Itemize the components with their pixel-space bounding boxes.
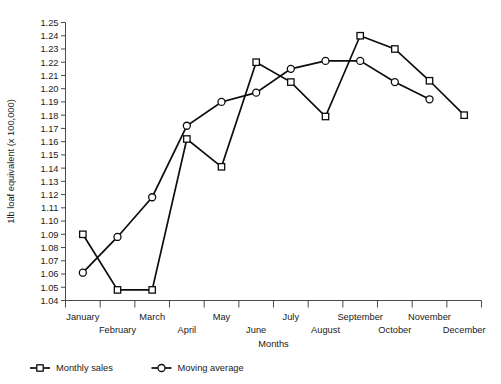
y-axis-tick-label: 1.14: [40, 164, 58, 174]
line-chart: 1.251.241.231.221.211.201.191.181.171.16…: [0, 0, 501, 384]
x-axis-title: Months: [258, 339, 289, 349]
data-point-square: [426, 78, 432, 84]
series-line-0: [83, 36, 464, 290]
y-axis-tick-label: 1.25: [40, 18, 58, 28]
y-axis-tick-label: 1.10: [40, 216, 58, 226]
data-point-square: [288, 79, 294, 85]
x-axis-month-label: July: [283, 312, 300, 322]
data-point-square: [461, 112, 467, 118]
legend-marker-circle: [158, 365, 165, 372]
y-axis-tick-label: 1.21: [40, 71, 58, 81]
x-axis-month-label: May: [213, 312, 231, 322]
y-axis-title: 1lb loaf equivalent (x 100,000): [6, 99, 16, 224]
data-point-circle: [149, 194, 156, 201]
chart-figure: 1.251.241.231.221.211.201.191.181.171.16…: [0, 0, 501, 384]
y-axis-tick-label: 1.04: [40, 296, 58, 306]
x-axis-month-label: August: [311, 325, 340, 335]
data-point-circle: [426, 96, 433, 103]
y-axis-tick-label: 1.17: [40, 124, 58, 134]
x-axis-month-label: March: [139, 312, 165, 322]
data-point-square: [253, 59, 259, 65]
x-axis-month-label: January: [66, 312, 99, 322]
x-axis-month-label: February: [99, 325, 137, 335]
data-point-square: [184, 136, 190, 142]
data-point-circle: [253, 89, 260, 96]
y-axis-tick-label: 1.09: [40, 230, 58, 240]
x-axis-month-label: September: [337, 312, 382, 322]
y-axis-tick-label: 1.15: [40, 150, 58, 160]
data-point-square: [392, 46, 398, 52]
x-axis-month-label: December: [443, 325, 486, 335]
y-axis-tick-label: 1.24: [40, 31, 58, 41]
y-axis-tick-label: 1.05: [40, 283, 58, 293]
data-point-square: [218, 164, 224, 170]
data-point-square: [114, 287, 120, 293]
data-point-square: [322, 113, 328, 119]
y-axis-tick-label: 1.19: [40, 97, 58, 107]
data-point-circle: [322, 57, 329, 64]
y-axis-tick-label: 1.11: [41, 203, 58, 213]
y-axis-tick-label: 1.18: [40, 111, 58, 121]
data-point-square: [149, 287, 155, 293]
data-point-circle: [357, 57, 364, 64]
y-axis-tick-label: 1.23: [40, 44, 58, 54]
data-point-circle: [114, 233, 121, 240]
data-point-circle: [79, 269, 86, 276]
x-axis-month-label: October: [378, 325, 411, 335]
y-axis-tick-label: 1.16: [40, 137, 58, 147]
x-axis-month-label: April: [178, 325, 197, 335]
data-point-circle: [391, 79, 398, 86]
legend-label-1: Moving average: [178, 363, 244, 373]
x-axis-month-label: November: [408, 312, 451, 322]
y-axis-tick-label: 1.06: [40, 269, 58, 279]
y-axis-tick-label: 1.12: [40, 190, 58, 200]
y-axis-tick-label: 1.13: [40, 177, 58, 187]
x-axis-month-label: June: [246, 325, 266, 335]
y-axis-tick-label: 1.20: [40, 84, 58, 94]
y-axis-tick-label: 1.22: [40, 58, 58, 68]
data-point-circle: [218, 98, 225, 105]
legend-label-0: Monthly sales: [56, 363, 113, 373]
y-axis-tick-label: 1.08: [40, 243, 58, 253]
data-point-circle: [183, 122, 190, 129]
data-point-circle: [287, 65, 294, 72]
data-point-square: [357, 33, 363, 39]
data-point-square: [80, 231, 86, 237]
y-axis-tick-label: 1.07: [40, 256, 58, 266]
legend-marker-square: [37, 365, 43, 371]
